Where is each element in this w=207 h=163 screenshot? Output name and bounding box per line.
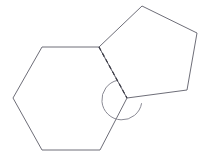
figure-canvas (0, 0, 207, 163)
polygon-diagram (0, 0, 207, 163)
